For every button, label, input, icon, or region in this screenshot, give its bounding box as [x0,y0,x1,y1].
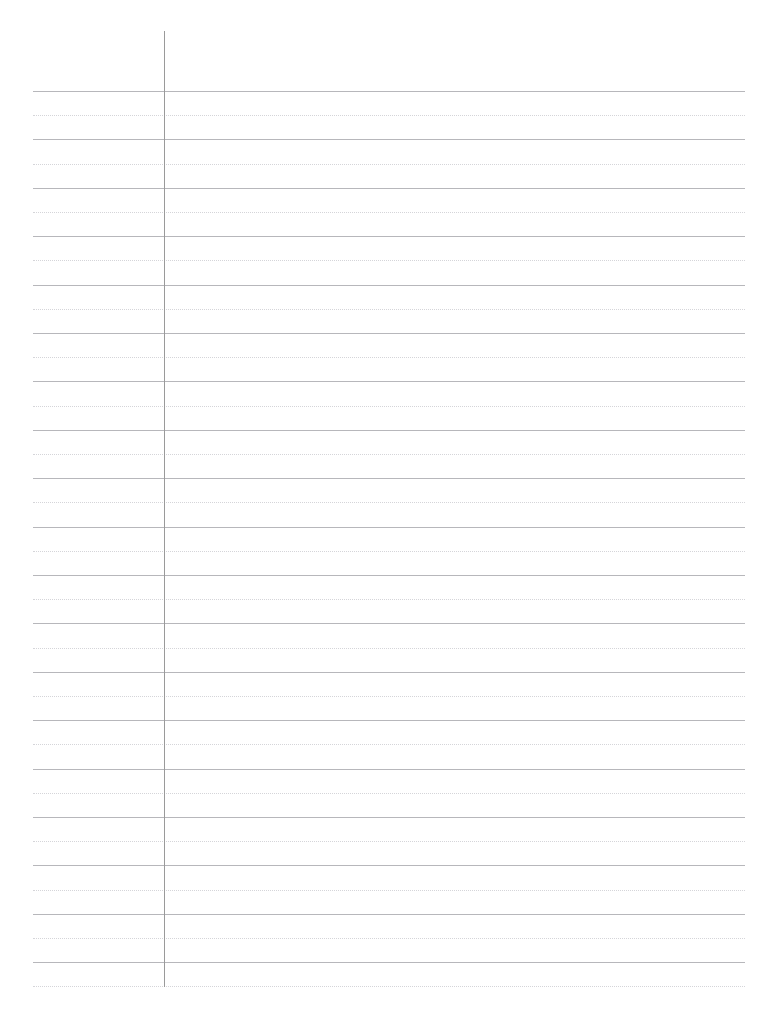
writing-area[interactable] [0,0,771,1018]
notebook-page [0,0,771,1018]
